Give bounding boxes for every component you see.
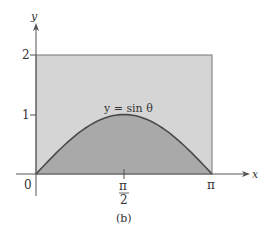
x-tick-label-pi-half-denominator: 2: [120, 193, 128, 207]
y-tick-label-2: 2: [22, 48, 30, 62]
y-tick-label-1: 1: [22, 108, 30, 122]
origin-label: 0: [24, 178, 32, 192]
plot-canvas: y 2 1 0 π 2 π x y = sin θ (b): [0, 0, 268, 233]
curve-label: y = sin θ: [103, 102, 153, 115]
x-tick-label-pi-half-numerator: π: [119, 179, 127, 193]
figure-caption: (b): [116, 212, 132, 225]
x-axis-label: x: [252, 168, 259, 181]
figure: y 2 1 0 π 2 π x y = sin θ (b): [0, 0, 268, 233]
y-axis-label: y: [30, 10, 38, 23]
x-tick-label-pi: π: [207, 178, 215, 192]
